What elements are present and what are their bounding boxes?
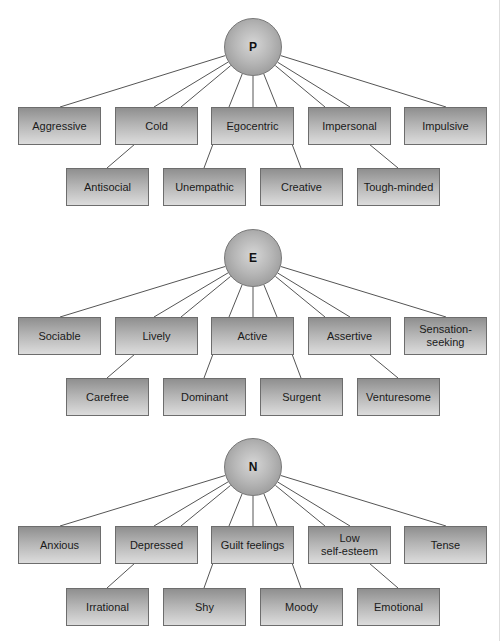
factor-circle-e: E [224, 229, 282, 287]
factor-circle-p: P [224, 18, 282, 76]
trait-box: Depressed [115, 526, 198, 564]
connector-line [60, 56, 225, 107]
connector-line [281, 56, 446, 107]
trait-box: Tense [404, 526, 487, 564]
connector-line [154, 273, 228, 317]
connector-line [292, 563, 301, 588]
trait-box: Sociable [18, 317, 101, 355]
trait-box: Assertive [308, 317, 391, 355]
trait-box: Tough-minded [357, 168, 440, 206]
trait-box: Creative [260, 168, 343, 206]
connector-line [264, 74, 277, 107]
connector-line [229, 285, 242, 317]
trait-box: Moody [260, 588, 343, 626]
connector-line [292, 144, 301, 168]
trait-box: Anxious [18, 526, 101, 564]
trait-box: Lively [115, 317, 198, 355]
connector-line [154, 62, 228, 107]
connector-line [275, 66, 325, 107]
trait-box: Egocentric [211, 107, 294, 145]
connector-line [229, 74, 242, 107]
trait-box: Antisocial [66, 168, 149, 206]
trait-box: Active [211, 317, 294, 355]
trait-box: Cold [115, 107, 198, 145]
connector-line [369, 563, 398, 588]
connector-line [107, 354, 135, 378]
factor-label: E [249, 251, 257, 265]
trait-box: Shy [163, 588, 246, 626]
connector-line [369, 144, 398, 168]
factor-label: P [249, 40, 257, 54]
trait-box: Impersonal [308, 107, 391, 145]
connector-line [264, 494, 277, 526]
trait-box: Impulsive [404, 107, 487, 145]
connector-line [204, 354, 213, 378]
connector-line [204, 144, 213, 168]
connector-line [229, 494, 242, 526]
connector-line [281, 266, 446, 317]
connector-line [369, 354, 398, 378]
connector-line [278, 273, 350, 317]
connector-line [292, 354, 301, 378]
connector-line [107, 144, 135, 168]
connector-line [60, 266, 225, 317]
connector-line [278, 482, 350, 526]
trait-hierarchy-diagram: P Aggressive Cold Egocentric Impersonal … [0, 0, 504, 641]
connector-line [107, 563, 135, 588]
connector-line [264, 285, 277, 317]
trait-box: Surgent [260, 378, 343, 416]
trait-box: Aggressive [18, 107, 101, 145]
trait-box: Guilt feelings [211, 526, 294, 564]
connector-line [278, 62, 350, 107]
trait-box: Dominant [163, 378, 246, 416]
connector-line [281, 475, 446, 526]
connector-line [60, 475, 225, 526]
trait-box: Sensation- seeking [404, 317, 487, 355]
trait-box: Low self-esteem [308, 526, 391, 564]
trait-box: Carefree [66, 378, 149, 416]
factor-circle-n: N [224, 438, 282, 496]
connector-line [204, 563, 213, 588]
factor-label: N [249, 460, 258, 474]
page-edge-divider [499, 0, 500, 641]
connector-line [154, 482, 228, 526]
trait-box: Venturesome [357, 378, 440, 416]
trait-box: Irrational [66, 588, 149, 626]
trait-box: Unempathic [163, 168, 246, 206]
trait-box: Emotional [357, 588, 440, 626]
